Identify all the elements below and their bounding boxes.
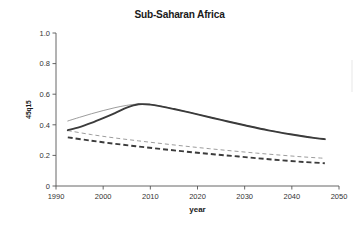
y-tick-label: 0.6 bbox=[40, 90, 50, 99]
data-line-female-dashed-thick bbox=[68, 137, 325, 163]
y-axis-title: 45q15 bbox=[25, 100, 33, 119]
x-tick-label: 1990 bbox=[48, 192, 65, 201]
y-tick-label: 1.0 bbox=[40, 29, 50, 38]
x-tick-label: 2050 bbox=[331, 192, 348, 201]
axes-group bbox=[53, 33, 353, 190]
x-axis-title: year bbox=[189, 205, 205, 214]
y-tick-label: 0 bbox=[46, 182, 50, 191]
chart-plot-area: 00.20.40.60.81.0199020002010202020302040… bbox=[0, 0, 359, 228]
data-line-male-dashed-thin bbox=[68, 131, 325, 159]
x-tick-label: 2030 bbox=[236, 192, 253, 201]
y-tick-label: 0.8 bbox=[40, 59, 50, 68]
y-tick-label: 0.4 bbox=[40, 121, 50, 130]
chart-figure: Sub-Saharan Africa 00.20.40.60.81.019902… bbox=[0, 0, 359, 228]
data-series-group bbox=[68, 104, 325, 163]
y-tick-label: 0.2 bbox=[40, 151, 50, 160]
x-tick-label: 2000 bbox=[95, 192, 112, 201]
x-tick-label: 2010 bbox=[142, 192, 159, 201]
x-tick-label: 2020 bbox=[189, 192, 206, 201]
x-tick-label: 2040 bbox=[283, 192, 300, 201]
